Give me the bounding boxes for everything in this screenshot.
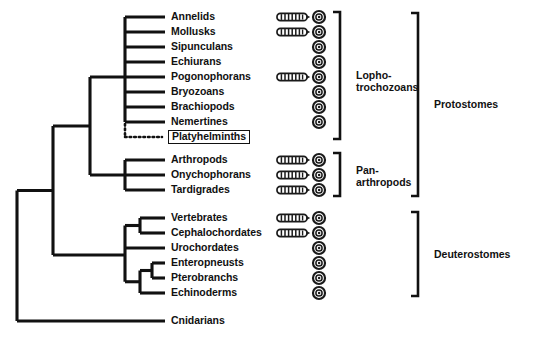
group-label-protostomes: Protostomes: [434, 98, 498, 110]
taxon-label-annelids: Annelids: [171, 11, 215, 22]
taxon-label-urochordates: Urochordates: [171, 242, 239, 253]
spiral-cleavage-icon-pterobranchs: [313, 272, 325, 284]
spiral-cleavage-icon-arthropods: [313, 154, 325, 166]
bracket-panarthropods: [333, 153, 340, 196]
spiral-cleavage-icon-urochordates: [313, 242, 325, 254]
taxon-label-cephalochordates: Cephalochordates: [171, 227, 262, 238]
taxon-label-arthropods: Arthropods: [171, 154, 228, 165]
bracket-protostomes: [411, 13, 418, 196]
taxon-label-pterobranchs: Pterobranchs: [171, 272, 238, 283]
bracket-deuterostomes: [411, 212, 418, 296]
segmented-worm-icon-annelids: [277, 13, 310, 20]
taxon-label-brachiopods: Brachiopods: [171, 101, 235, 112]
spiral-cleavage-icon-bryozoans: [313, 86, 325, 98]
spiral-cleavage-icon-nemertines: [313, 116, 325, 128]
tree-drawing: [0, 0, 540, 337]
cladogram-figure: AnnelidsMollusksSipunculansEchiuransPogo…: [0, 0, 540, 337]
spiral-cleavage-icon-tardigrades: [313, 184, 325, 196]
taxon-label-nemertines: Nemertines: [171, 116, 228, 127]
spiral-cleavage-icon-annelids: [313, 11, 325, 23]
taxon-label-bryozoans: Bryozoans: [171, 86, 224, 97]
group-label-line2: arthropods: [356, 176, 411, 188]
spiral-cleavage-icon-vertebrates: [313, 212, 325, 224]
taxon-label-onychophorans: Onychophorans: [171, 169, 251, 180]
taxon-label-cnidarians: Cnidarians: [171, 315, 225, 326]
spiral-cleavage-icon-sipunculans: [313, 41, 325, 53]
group-label-line2: trochozoans: [356, 81, 418, 93]
taxon-label-sipunculans: Sipunculans: [171, 41, 233, 52]
segmented-worm-icon-arthropods: [277, 156, 310, 163]
group-label-panarthropods: Pan-arthropods: [356, 164, 411, 188]
segmented-worm-icon-pogonophorans: [277, 73, 310, 80]
segmented-worm-icon-cephalochordates: [277, 229, 310, 236]
spiral-cleavage-icon-echiurans: [313, 56, 325, 68]
spiral-cleavage-icon-enteropneusts: [313, 257, 325, 269]
segmented-worm-icon-onychophorans: [277, 171, 310, 178]
taxon-label-platyhelminths: Platyhelminths: [168, 130, 250, 144]
spiral-cleavage-icon-onychophorans: [313, 169, 325, 181]
taxon-label-mollusks: Mollusks: [171, 26, 216, 37]
segmented-worm-icon-tardigrades: [277, 186, 310, 193]
taxon-label-echiurans: Echiurans: [171, 56, 221, 67]
taxon-label-echinoderms: Echinoderms: [171, 287, 237, 298]
spiral-cleavage-icon-brachiopods: [313, 101, 325, 113]
group-label-line1: Pan-: [356, 164, 411, 176]
segmented-worm-icon-vertebrates: [277, 214, 310, 221]
taxon-label-pogonophorans: Pogonophorans: [171, 71, 251, 82]
segmented-worm-icon-mollusks: [277, 28, 310, 35]
spiral-cleavage-icon-echinoderms: [313, 287, 325, 299]
group-label-line1: Lopho-: [356, 69, 418, 81]
taxon-label-vertebrates: Vertebrates: [171, 212, 228, 223]
spiral-cleavage-icon-pogonophorans: [313, 71, 325, 83]
taxon-label-enteropneusts: Enteropneusts: [171, 257, 244, 268]
group-label-deuterostomes: Deuterostomes: [434, 248, 510, 260]
bracket-lophotrochozoans: [333, 12, 340, 139]
spiral-cleavage-icon-cephalochordates: [313, 227, 325, 239]
taxon-label-tardigrades: Tardigrades: [171, 184, 230, 195]
spiral-cleavage-icon-mollusks: [313, 26, 325, 38]
group-label-lophotrochozoans: Lopho-trochozoans: [356, 69, 418, 93]
